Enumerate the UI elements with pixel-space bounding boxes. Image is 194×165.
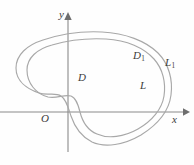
curve-l1-subscript: 1	[172, 62, 176, 70]
y-axis-arrowhead	[64, 12, 71, 20]
x-axis-arrowhead	[183, 108, 190, 116]
math-figure: y x O D D1 L1 L	[0, 0, 194, 165]
figure-canvas	[0, 0, 194, 165]
curve-l-label: L	[140, 80, 146, 91]
region-d1-subscript: 1	[141, 55, 145, 63]
curve-l1-label: L1	[165, 57, 175, 70]
region-d-label: D	[78, 72, 86, 83]
outer-curve-L1	[16, 32, 171, 145]
x-axis-label: x	[172, 114, 177, 125]
region-d1-label: D1	[133, 50, 145, 63]
region-d1-base: D	[133, 49, 141, 61]
y-axis-label: y	[59, 9, 64, 20]
curve-l1-base: L	[165, 56, 171, 68]
origin-label: O	[41, 113, 49, 124]
